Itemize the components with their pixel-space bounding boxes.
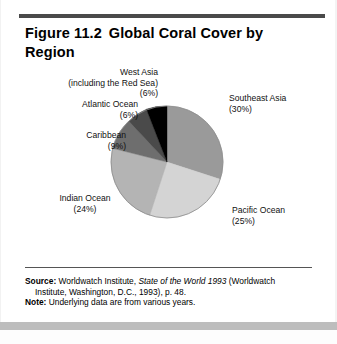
figure-title-line1: Global Coral Cover by (109, 25, 263, 41)
page-bottom-band (0, 322, 337, 330)
footer-note-line: Note: Underlying data are from various y… (25, 297, 314, 308)
footer-source-text-b: (Worldwatch (229, 276, 275, 286)
pie-label-caribbean: Caribbean (9%) (26, 130, 126, 151)
pie-label-west-asia: West Asia (including the Red Sea) (6%) (26, 67, 158, 99)
footer-source-label: Source: (25, 276, 56, 286)
figure-container: Figure 11.2Global Coral Cover by Region … (0, 0, 337, 344)
footer-source-line2: Institute, Washington, D.C., 1993), p. 4… (25, 287, 314, 298)
footer-source-title: State of the World 1993 (138, 276, 226, 286)
footer-source-line1: Source: Worldwatch Institute, State of t… (25, 276, 314, 287)
footer-source-text-a: Worldwatch Institute, (59, 276, 137, 286)
figure-footer: Source: Worldwatch Institute, State of t… (25, 276, 314, 308)
pie-label-atlantic-ocean-percent: (6%) (120, 110, 138, 120)
page-bottom-margin (0, 330, 337, 344)
pie-label-atlantic-ocean-line1: Atlantic Ocean (82, 99, 138, 109)
pie-label-caribbean-percent: (9%) (108, 141, 126, 151)
pie-label-indian-ocean-percent: (24%) (74, 204, 97, 214)
pie-label-southeast-asia: Southeast Asia (30%) (229, 93, 333, 114)
pie-label-southeast-asia-line1: Southeast Asia (229, 93, 286, 103)
pie-label-pacific-ocean-line1: Pacific Ocean (232, 205, 285, 215)
figure-title: Figure 11.2Global Coral Cover by Region (25, 24, 313, 62)
footer-divider-rule (25, 267, 312, 268)
pie-label-west-asia-line2: (including the Red Sea) (68, 78, 158, 88)
pie-label-atlantic-ocean: Atlantic Ocean (6%) (26, 99, 138, 120)
footer-note-text: Underlying data are from various years. (49, 297, 196, 307)
pie-label-southeast-asia-percent: (30%) (229, 104, 252, 114)
pie-label-pacific-ocean-percent: (25%) (232, 216, 255, 226)
pie-label-caribbean-line1: Caribbean (86, 130, 126, 140)
pie-label-west-asia-percent: (6%) (140, 88, 158, 98)
footer-note-label: Note: (25, 297, 46, 307)
title-top-rule (19, 14, 325, 18)
pie-label-west-asia-line1: West Asia (120, 67, 158, 77)
pie-label-pacific-ocean: Pacific Ocean (25%) (232, 205, 332, 226)
figure-number: Figure 11.2 (25, 25, 102, 41)
pie-chart-area: West Asia (including the Red Sea) (6%) A… (0, 58, 337, 263)
pie-label-indian-ocean: Indian Ocean (24%) (25, 193, 145, 214)
pie-label-indian-ocean-line1: Indian Ocean (59, 193, 110, 203)
